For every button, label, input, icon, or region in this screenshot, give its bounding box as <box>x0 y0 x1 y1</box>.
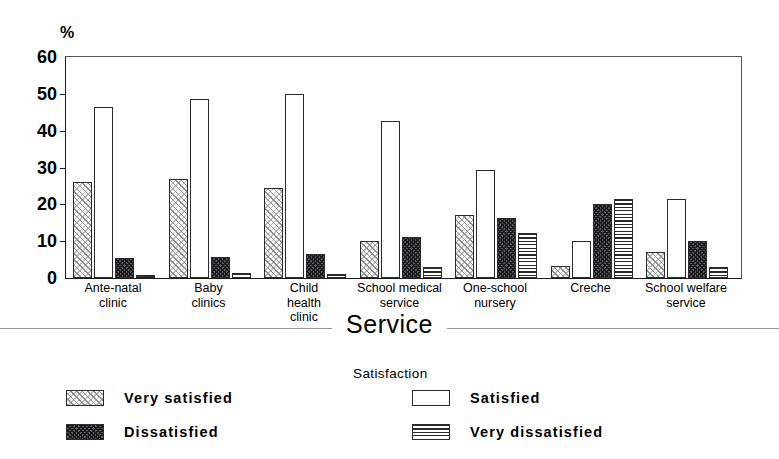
bar <box>94 107 113 278</box>
y-axis-tick-mark <box>60 131 66 132</box>
legend-swatch <box>66 390 104 406</box>
bar <box>211 257 230 278</box>
legend-item: Very dissatisfied <box>412 424 603 440</box>
bar-group <box>169 57 251 278</box>
legend-swatch <box>412 424 450 440</box>
bar-group <box>264 57 346 278</box>
legend-title: Satisfaction <box>353 366 428 381</box>
bar <box>455 215 474 278</box>
bar <box>709 267 728 278</box>
bar <box>551 266 570 278</box>
bar <box>667 199 686 278</box>
bar-group <box>455 57 537 278</box>
bar <box>360 241 379 278</box>
bar <box>115 258 134 278</box>
bar-group <box>360 57 442 278</box>
legend-item-label: Very satisfied <box>124 390 233 406</box>
x-axis-tick-label: School medical service <box>345 281 455 310</box>
bar <box>136 275 155 278</box>
bar <box>285 94 304 278</box>
y-axis-tick-label: 10 <box>11 231 66 252</box>
bar-group <box>551 57 633 278</box>
y-axis-tick-label: 50 <box>11 83 66 104</box>
legend-item-label: Very dissatisfied <box>470 424 603 440</box>
bar <box>306 254 325 278</box>
plot-area: 0102030405060 <box>65 56 742 279</box>
bar <box>614 199 633 278</box>
y-axis-tick-mark <box>60 94 66 95</box>
bar <box>264 188 283 278</box>
bar <box>572 241 591 278</box>
y-axis-tick-label: 60 <box>11 47 66 68</box>
y-axis-tick-mark <box>60 204 66 205</box>
y-axis-tick-label: 30 <box>11 157 66 178</box>
bar <box>232 273 251 278</box>
x-axis-title-text: Service <box>332 310 447 338</box>
bar <box>402 237 421 278</box>
bar <box>497 218 516 278</box>
bar <box>518 233 537 278</box>
bar <box>169 179 188 278</box>
y-axis-tick-label: 40 <box>11 120 66 141</box>
bar <box>327 274 346 278</box>
bar <box>73 182 92 278</box>
x-axis-tick-label: One-school nursery <box>440 281 550 310</box>
bar <box>688 241 707 278</box>
bar-group <box>73 57 155 278</box>
bar-chart: % 0102030405060 Ante-natal clinicBaby cl… <box>0 0 779 459</box>
x-axis-title: Service <box>0 310 779 339</box>
y-axis-tick-mark <box>60 241 66 242</box>
x-axis-tick-label: Ante-natal clinic <box>58 281 168 310</box>
x-axis-tick-label: Baby clinics <box>154 281 264 310</box>
bar <box>190 99 209 278</box>
bar <box>476 170 495 278</box>
bar <box>423 267 442 278</box>
bar <box>593 204 612 278</box>
y-axis-tick-label: 20 <box>11 194 66 215</box>
x-axis-tick-label: School welfare service <box>631 281 741 310</box>
legend-item: Dissatisfied <box>66 424 219 440</box>
bar-group <box>646 57 728 278</box>
bar <box>646 252 665 278</box>
legend-swatch <box>412 390 450 406</box>
y-axis-tick-mark <box>60 168 66 169</box>
legend-item-label: Satisfied <box>470 390 540 406</box>
legend-swatch <box>66 424 104 440</box>
legend-item: Satisfied <box>412 390 540 406</box>
legend-item-label: Dissatisfied <box>124 424 219 440</box>
bar <box>381 121 400 278</box>
legend-item: Very satisfied <box>66 390 233 406</box>
x-axis-tick-label: Creche <box>536 281 646 296</box>
y-axis-unit-label: % <box>60 24 75 42</box>
